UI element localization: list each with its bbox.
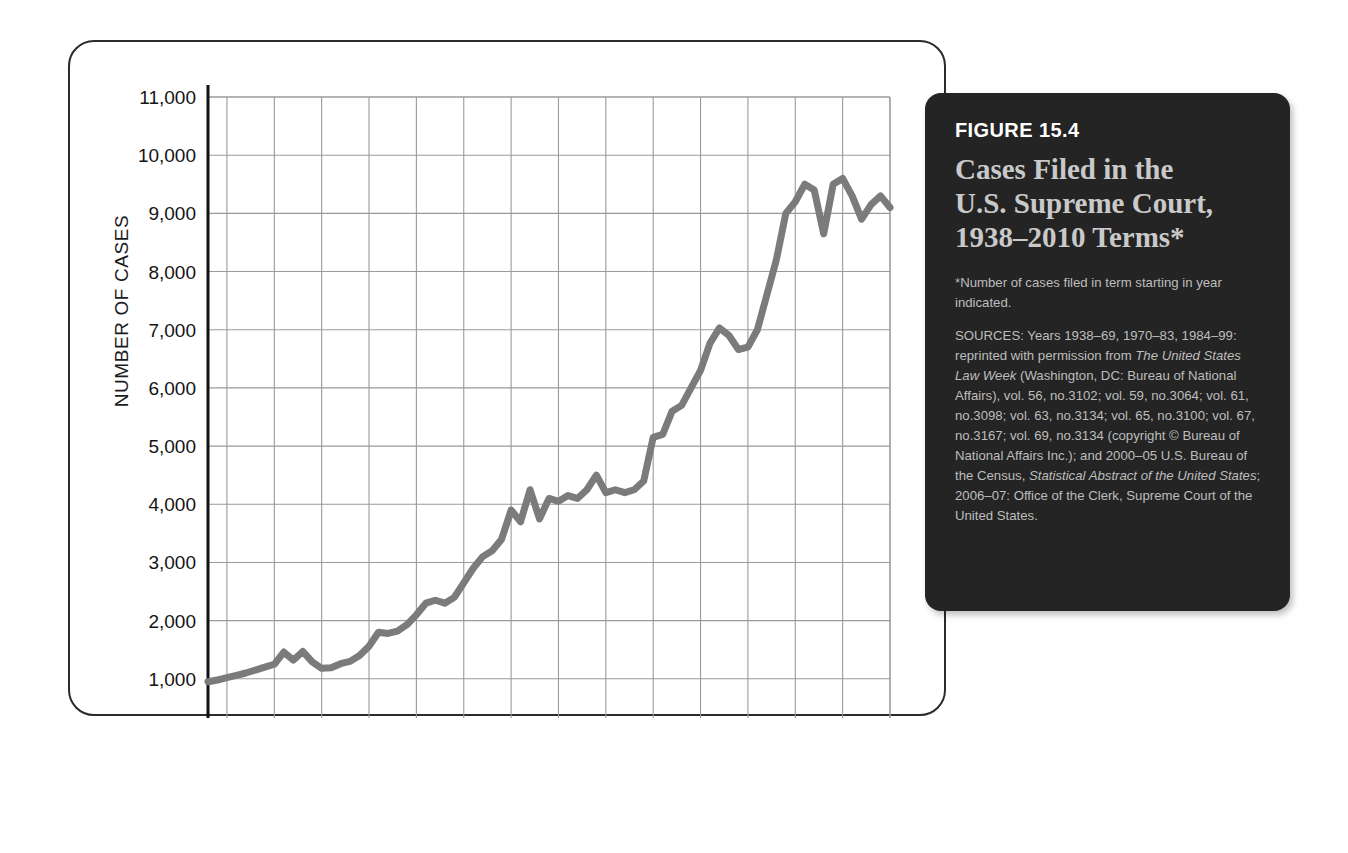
y-tick-labels: 01,0002,0003,0004,0005,0006,0007,0008,00… — [138, 87, 196, 718]
figure-card: NUMBER OF CASES 01,0002,0003,0004,0005,0… — [68, 40, 946, 716]
y-tick-label: 1,000 — [148, 669, 196, 690]
chart-plot-area: 01,0002,0003,0004,0005,0006,0007,0008,00… — [70, 42, 948, 718]
figure-title-line-3: 1938–2010 Terms* — [955, 220, 1264, 254]
y-tick-label: 10,000 — [138, 145, 196, 166]
y-tick-label: 4,000 — [148, 494, 196, 515]
y-tick-label: 11,000 — [139, 87, 196, 108]
figure-title-line-2: U.S. Supreme Court, — [955, 186, 1264, 220]
figure-title-line-1: Cases Filed in the — [955, 152, 1264, 186]
figure-caption-panel: FIGURE 15.4 Cases Filed in the U.S. Supr… — [925, 93, 1290, 611]
figure-footnote: *Number of cases filed in term starting … — [955, 273, 1264, 313]
data-line-series — [208, 178, 890, 681]
axis-lines — [208, 85, 902, 718]
cases-filed-line — [208, 178, 890, 681]
y-tick-label: 7,000 — [148, 320, 196, 341]
figure-title: Cases Filed in the U.S. Supreme Court, 1… — [955, 152, 1264, 255]
line-chart-svg: 01,0002,0003,0004,0005,0006,0007,0008,00… — [70, 42, 948, 718]
y-tick-label: 9,000 — [148, 203, 196, 224]
gridlines — [208, 97, 890, 718]
y-tick-label: 2,000 — [148, 611, 196, 632]
sources-mid-text: (Washington, DC: Bureau of National Affa… — [955, 368, 1255, 483]
figure-sources: SOURCES: Years 1938–69, 1970–83, 1984–99… — [955, 326, 1264, 527]
y-tick-label: 8,000 — [148, 262, 196, 283]
y-tick-label: 5,000 — [148, 436, 196, 457]
sources-italic-title-2: Statistical Abstract of the United State… — [1029, 468, 1256, 483]
figure-number-label: FIGURE 15.4 — [955, 119, 1264, 142]
y-tick-label: 6,000 — [148, 378, 196, 399]
y-tick-label: 3,000 — [148, 552, 196, 573]
